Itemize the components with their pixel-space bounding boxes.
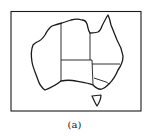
tasmania-outline	[92, 95, 101, 106]
border-nsw-vic	[94, 78, 109, 84]
mainland-outline	[31, 15, 123, 90]
figure-caption: (a)	[0, 119, 149, 130]
figure-frame	[11, 12, 141, 112]
